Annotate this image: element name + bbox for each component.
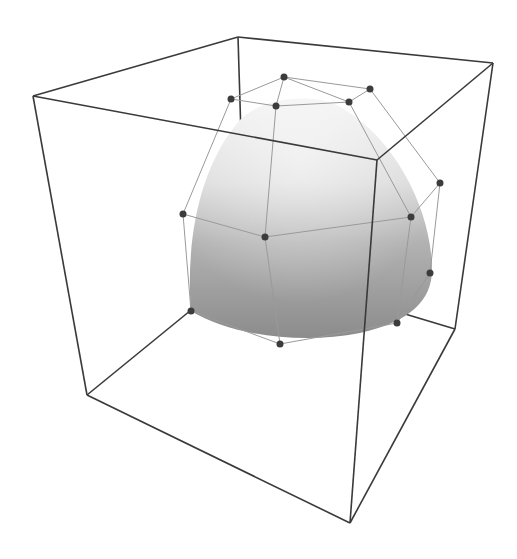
- cube-edge: [377, 63, 493, 160]
- control-point: [408, 214, 415, 221]
- figure-canvas: [0, 0, 517, 559]
- control-point: [180, 211, 187, 218]
- control-point: [262, 234, 269, 241]
- control-point: [427, 270, 434, 277]
- control-point: [281, 74, 288, 81]
- cube-edge: [33, 96, 87, 395]
- control-point: [367, 86, 374, 93]
- cube-edge: [33, 37, 238, 96]
- cube-edge: [238, 37, 493, 63]
- control-point: [394, 320, 401, 327]
- dome-surface: [190, 99, 432, 339]
- control-point: [437, 180, 444, 187]
- control-point: [277, 341, 284, 348]
- cube-edge: [350, 329, 455, 523]
- control-point: [228, 96, 235, 103]
- control-point: [346, 99, 353, 106]
- diagram-svg: [0, 0, 517, 559]
- cube-edge: [455, 63, 493, 329]
- control-point: [273, 103, 280, 110]
- control-point: [188, 308, 195, 315]
- cube-edge: [87, 395, 350, 523]
